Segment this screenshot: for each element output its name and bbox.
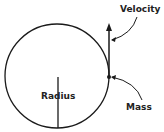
mass-leader-line <box>112 77 142 100</box>
velocity-arrowhead-icon <box>106 23 112 31</box>
orbit-circle <box>5 24 109 128</box>
velocity-leader-line <box>112 17 137 40</box>
circular-motion-diagram <box>0 0 164 132</box>
mass-dot <box>107 75 111 79</box>
velocity-leader-arrowhead-icon <box>111 37 116 42</box>
mass-label: Mass <box>126 103 152 112</box>
radius-label: Radius <box>41 92 75 101</box>
velocity-label: Velocity <box>120 5 160 14</box>
mass-leader-arrowhead-icon <box>111 75 116 80</box>
